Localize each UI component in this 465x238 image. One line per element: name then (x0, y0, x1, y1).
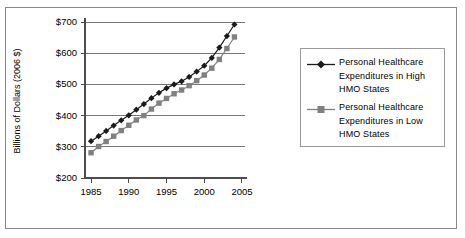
data-point-marker (164, 96, 169, 101)
data-point-marker (179, 87, 184, 92)
x-tick-label-2000: 2000 (184, 186, 224, 197)
x-tick-label-2005: 2005 (222, 186, 262, 197)
data-point-marker (149, 106, 154, 111)
y-tick-label-700: $700 (39, 16, 77, 27)
data-point-marker (186, 83, 191, 88)
x-tick-label-1985: 1985 (71, 186, 111, 197)
data-point-marker (156, 100, 161, 105)
data-point-marker (171, 81, 177, 87)
y-tick-label-300: $300 (39, 141, 77, 152)
square-marker-icon (307, 105, 335, 114)
y-tick-label-400: $400 (39, 110, 77, 121)
data-point-marker (179, 78, 185, 84)
data-point-marker (88, 150, 93, 155)
legend-label-high-hmo: Personal Healthcare Expenditures in High… (339, 56, 443, 97)
y-tick-label-500: $500 (39, 78, 77, 89)
data-point-marker (96, 144, 101, 149)
x-tick-label-1995: 1995 (147, 186, 187, 197)
data-point-marker (103, 139, 108, 144)
data-point-marker (224, 33, 230, 39)
data-series-group (88, 21, 238, 155)
y-tick-label-600: $600 (39, 47, 77, 58)
data-point-marker (88, 138, 94, 144)
chart-figure: Billions of Dollars (2006 $) $200$300$40… (0, 0, 465, 238)
data-point-marker (224, 46, 229, 51)
x-tick-label-1990: 1990 (109, 186, 149, 197)
data-point-marker (202, 72, 207, 77)
y-tick-label-200: $200 (39, 172, 77, 183)
data-point-marker (126, 123, 131, 128)
data-point-marker (141, 113, 146, 118)
legend-label-low-hmo: Personal Healthcare Expenditures in Low … (339, 101, 443, 142)
data-point-marker (209, 65, 214, 70)
data-point-marker (217, 57, 222, 62)
data-point-marker (134, 117, 139, 122)
diamond-marker-icon (307, 60, 335, 69)
data-point-marker (194, 78, 199, 83)
data-point-marker (232, 34, 237, 39)
data-point-marker (171, 91, 176, 96)
y-axis-title: Billions of Dollars (2006 $) (12, 46, 22, 156)
chart-legend: Personal Healthcare Expenditures in High… (300, 48, 445, 147)
data-point-marker (119, 128, 124, 133)
data-point-marker (163, 85, 169, 91)
data-point-marker (111, 133, 116, 138)
